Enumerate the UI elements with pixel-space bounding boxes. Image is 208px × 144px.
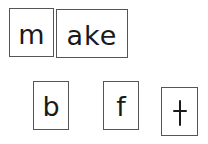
rime-tile-ake[interactable]: ake <box>56 9 128 58</box>
letter-choice-f[interactable]: f <box>103 81 139 130</box>
letter-choice-label: b <box>42 93 59 120</box>
letter-choice-label: f <box>116 93 126 120</box>
onset-letter: m <box>18 21 44 48</box>
letter-choice-b[interactable]: b <box>33 81 69 130</box>
rime-letters: ake <box>67 22 118 49</box>
letter-t-glyph <box>173 100 187 126</box>
t-crossbar <box>173 110 187 112</box>
t-stem <box>179 100 181 126</box>
onset-tile-m[interactable]: m <box>9 8 54 57</box>
letter-choice-t[interactable]: t <box>161 87 198 136</box>
